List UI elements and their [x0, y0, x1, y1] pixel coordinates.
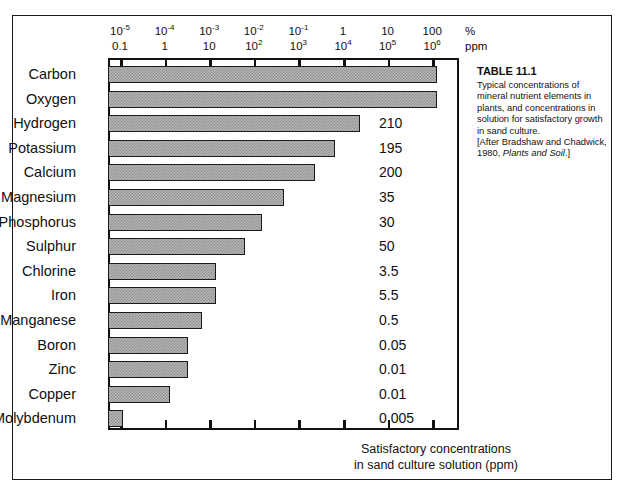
bar-value-zinc: 0.01 — [379, 361, 406, 378]
bar-label-calcium: Calcium — [0, 164, 76, 181]
bar-label-zinc: Zinc — [0, 361, 76, 378]
bar-label-phosphorus: Phosphorus — [0, 214, 76, 231]
table-caption: TABLE 11.1 Typical concentrations of min… — [477, 64, 611, 160]
bar-sulphur — [108, 238, 245, 255]
bar-row: Sulphur50 — [13, 238, 611, 262]
bar-row: Boron0.05 — [13, 337, 611, 361]
caption-title: TABLE 11.1 — [477, 64, 611, 79]
scale-pct-tick-3: 10-2 — [244, 25, 264, 37]
bar-boron — [108, 337, 188, 354]
bar-value-calcium: 200 — [379, 164, 402, 181]
bar-label-oxygen: Oxygen — [0, 91, 76, 108]
scale-pct-tick-1: 10-4 — [155, 25, 175, 37]
bar-value-boron: 0.05 — [379, 337, 406, 354]
bar-calcium — [108, 164, 315, 181]
bar-potassium — [108, 140, 335, 157]
bar-magnesium — [108, 189, 284, 206]
scale-pct-tick-5: 1 — [340, 25, 346, 37]
bar-row: Molybdenum0.005 — [13, 410, 611, 434]
scale-ppm-tick-0: 0.1 — [112, 40, 128, 52]
scale-pct-tick-6: 10 — [381, 25, 394, 37]
bar-row: Iron5.5 — [13, 287, 611, 311]
bar-row: Zinc0.01 — [13, 361, 611, 385]
scale-pct-tick-4: 10-1 — [288, 25, 308, 37]
bar-label-sulphur: Sulphur — [0, 238, 76, 255]
axis-caption-line-2: in sand culture solution (ppm) — [331, 457, 541, 473]
bar-molybdenum — [108, 410, 123, 427]
caption-source-italic: Plants and Soil — [503, 148, 565, 158]
bar-value-hydrogen: 210 — [379, 115, 402, 132]
bar-label-chlorine: Chlorine — [0, 263, 76, 280]
bar-hydrogen — [108, 115, 360, 132]
bar-label-manganese: Manganese — [0, 312, 76, 329]
scale-pct-tick-7: 100 — [423, 25, 442, 37]
scale-ppm-tick-2: 10 — [203, 40, 216, 52]
bar-label-boron: Boron — [0, 337, 76, 354]
bar-value-magnesium: 35 — [379, 189, 395, 206]
scale-ppm-tick-6: 105 — [379, 40, 396, 52]
bar-label-iron: Iron — [0, 287, 76, 304]
scale-ppm-tick-1: 1 — [161, 40, 167, 52]
bar-phosphorus — [108, 214, 262, 231]
bar-label-potassium: Potassium — [0, 140, 76, 157]
bar-label-molybdenum: Molybdenum — [0, 410, 76, 427]
scale-ppm-tick-3: 102 — [245, 40, 262, 52]
bar-value-potassium: 195 — [379, 140, 402, 157]
scale-ppm-tick-5: 104 — [334, 40, 351, 52]
caption-source-post: .] — [565, 148, 570, 158]
bar-carbon — [108, 66, 437, 83]
bar-row: Calcium200 — [13, 164, 611, 188]
bar-row: Copper0.01 — [13, 386, 611, 410]
bar-row: Magnesium35 — [13, 189, 611, 213]
bar-row: Phosphorus30 — [13, 214, 611, 238]
bar-copper — [108, 386, 170, 403]
caption-body: Typical concentrations of mineral nutrie… — [477, 80, 611, 137]
scale-ppm-tick-7: 106 — [424, 40, 441, 52]
figure-panel: 10-510-410-310-210-1110100 0.11101021031… — [12, 15, 612, 480]
bar-value-iron: 5.5 — [379, 287, 398, 304]
bar-label-carbon: Carbon — [0, 66, 76, 83]
scale-pct-tick-0: 10-5 — [110, 25, 130, 37]
scale-pct-tick-2: 10-3 — [199, 25, 219, 37]
bar-value-sulphur: 50 — [379, 238, 395, 255]
bar-label-hydrogen: Hydrogen — [0, 115, 76, 132]
bar-label-copper: Copper — [0, 386, 76, 403]
bar-value-copper: 0.01 — [379, 386, 406, 403]
axis-caption-line-1: Satisfactory concentrations — [331, 441, 541, 457]
bar-iron — [108, 287, 216, 304]
bar-value-manganese: 0.5 — [379, 312, 398, 329]
bar-oxygen — [108, 91, 437, 108]
bar-row: Chlorine3.5 — [13, 263, 611, 287]
bar-value-chlorine: 3.5 — [379, 263, 398, 280]
caption-source: [After Bradshaw and Chadwick, 1980, Plan… — [477, 137, 611, 160]
bar-row: Manganese0.5 — [13, 312, 611, 336]
scale-ppm-tick-4: 103 — [290, 40, 307, 52]
bar-value-molybdenum: 0.005 — [379, 410, 414, 427]
bar-label-magnesium: Magnesium — [0, 189, 76, 206]
axis-caption: Satisfactory concentrations in sand cult… — [331, 441, 541, 473]
unit-label-percent: % — [465, 25, 475, 37]
bar-chlorine — [108, 263, 216, 280]
bar-value-phosphorus: 30 — [379, 214, 395, 231]
bar-zinc — [108, 361, 188, 378]
unit-label-ppm: ppm — [465, 40, 487, 52]
bar-manganese — [108, 312, 202, 329]
